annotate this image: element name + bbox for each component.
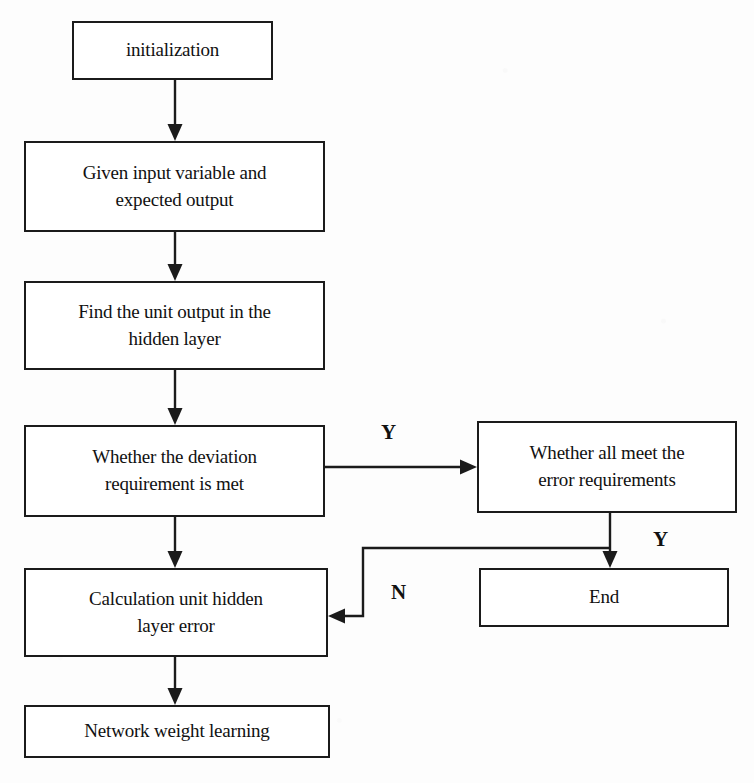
node-deviation-check-label: Whether the deviation requirement is met — [92, 444, 257, 498]
node-network-weight[interactable]: Network weight learning — [24, 705, 330, 758]
node-initialization[interactable]: initialization — [72, 21, 273, 80]
node-deviation-check[interactable]: Whether the deviation requirement is met — [24, 425, 325, 517]
node-end[interactable]: End — [479, 568, 729, 627]
edge-find-unit-output-to-deviation-check — [168, 370, 183, 425]
connector-layer — [0, 0, 754, 783]
edge-given-input-to-find-unit-output — [168, 232, 183, 281]
node-error-check[interactable]: Whether all meet the error requirements — [477, 421, 737, 513]
node-end-label: End — [589, 584, 619, 611]
node-find-unit-output[interactable]: Find the unit output in the hidden layer — [24, 281, 325, 370]
edge-initialization-to-given-input — [168, 80, 183, 141]
edge-label-error-yes: Y — [653, 529, 668, 550]
node-initialization-label: initialization — [126, 37, 219, 64]
node-error-check-label: Whether all meet the error requirements — [530, 440, 685, 494]
edge-label-deviation-yes: Y — [381, 422, 396, 443]
node-find-unit-output-label: Find the unit output in the hidden layer — [78, 299, 271, 353]
edge-calculation-to-network-weight — [168, 657, 183, 705]
edge-deviation-check-to-calculation — [168, 517, 183, 568]
node-network-weight-label: Network weight learning — [84, 718, 269, 745]
node-calculation-label: Calculation unit hidden layer error — [89, 586, 263, 640]
edge-label-error-no: N — [391, 582, 406, 603]
edge-deviation-check-yes-to-error-check — [325, 460, 477, 475]
edge-error-check-yes-to-end — [603, 513, 618, 568]
node-given-input[interactable]: Given input variable and expected output — [24, 141, 325, 232]
node-calculation[interactable]: Calculation unit hidden layer error — [24, 568, 328, 657]
flowchart-canvas: initialization Given input variable and … — [0, 0, 754, 783]
node-given-input-label: Given input variable and expected output — [83, 160, 267, 214]
